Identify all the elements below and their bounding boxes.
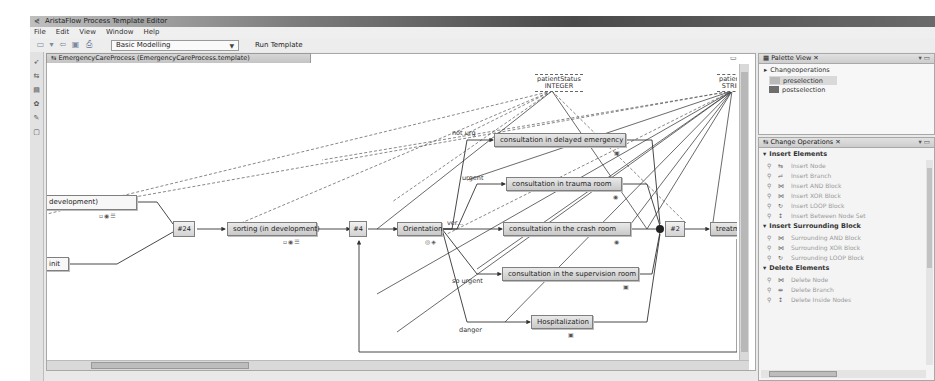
minimize-icon[interactable]: ▭ (730, 54, 737, 62)
edge-label-urgent: urgent (462, 174, 483, 182)
settings-tool-icon[interactable]: ✿ (33, 100, 41, 108)
edge-label-very-urgent: ver... (447, 219, 463, 227)
expand-icon: ▾ (763, 150, 766, 158)
menu-help[interactable]: Help (144, 27, 160, 38)
scroll-thumb[interactable] (769, 371, 837, 377)
scroll-thumb[interactable] (91, 362, 249, 369)
back-icon[interactable]: ⇦ (58, 41, 67, 49)
op-insert-between-node-set[interactable]: ⚲↕Insert Between Node Set (767, 210, 934, 220)
editor-tab[interactable]: ⇆ EmergencyCareProcess (EmergencyCarePro… (46, 53, 311, 63)
window-title: AristaFlow Process Template Editor (45, 16, 167, 27)
insert-between-icon: ↕ (778, 212, 786, 219)
folder-icon: ▸ (764, 66, 767, 74)
menu-view[interactable]: View (79, 27, 96, 38)
palette-view-panel: ▦ Palette View ✕ ▾ ▭ ▸ Changeoperations … (758, 53, 935, 135)
menu-window[interactable]: Window (106, 27, 134, 38)
node-status-icons: ◎◈ (425, 238, 437, 245)
node-init[interactable]: init (47, 257, 69, 271)
toolbar: ▭ ▾ ⇦ ▣ ⎙ Basic Modelling ▼ Run Template (30, 38, 935, 52)
data-object-patient-status[interactable]: patientStatus INTEGER (535, 74, 583, 92)
window-tool-icon[interactable]: ▢ (33, 128, 41, 136)
change-ops-horizontal-scrollbar[interactable] (761, 370, 926, 378)
node-sorting[interactable]: sorting (in development) (227, 222, 317, 236)
pin-icon: ⚲ (767, 296, 773, 303)
pin-icon: ⚲ (767, 212, 773, 219)
loop-start-gateway[interactable]: #4 (349, 221, 367, 237)
color-swatch (769, 86, 779, 93)
op-surrounding-xor-block[interactable]: ⚲⋈Surrounding XOR Block (767, 242, 934, 252)
pin-icon: ⚲ (767, 192, 773, 199)
loop-block-icon: ↻ (778, 254, 786, 261)
pin-tool-icon[interactable]: ✎ (33, 114, 41, 122)
op-surrounding-loop-block[interactable]: ⚲↻Surrounding LOOP Block (767, 252, 934, 262)
change-operations-panel: ⇆ Change Operations ✕ ▾ ▭ ▾ Insert Eleme… (758, 137, 935, 381)
xor-block-icon: ⋈ (778, 192, 786, 199)
scroll-thumb[interactable] (741, 72, 748, 352)
xor-join-gateway[interactable]: #24 (173, 221, 195, 237)
canvas-vertical-scrollbar[interactable] (739, 64, 749, 360)
process-canvas[interactable]: patientStatus INTEGER patientID STRING d… (47, 64, 737, 360)
panel-window-controls[interactable]: ▾ ▭ (919, 54, 930, 63)
app-window: ⋞ AristaFlow Process Template Editor Fil… (30, 16, 935, 381)
close-icon[interactable]: ✕ (835, 138, 840, 146)
change-ops-vertical-scrollbar[interactable] (926, 160, 933, 365)
edge-label-so-urgent: so urgent (452, 277, 483, 285)
node-consultation-trauma[interactable]: consultation in trauma room (506, 177, 622, 191)
save-icon[interactable]: ▣ (71, 41, 80, 49)
layout-tool-icon[interactable]: ▤ (33, 86, 41, 94)
print-icon[interactable]: ⎙ (84, 41, 93, 49)
expand-icon: ▾ (763, 264, 766, 272)
node-tool-icon[interactable]: ⇆ (33, 72, 41, 80)
node-development[interactable]: development) (47, 195, 137, 210)
node-consultation-supervision[interactable]: consultation in the supervision room (502, 267, 639, 281)
chevron-down-icon: ▼ (229, 42, 234, 49)
section-delete-elements[interactable]: ▾ Delete Elements (759, 262, 934, 274)
op-insert-node[interactable]: ⚲⇆Insert Node (767, 160, 934, 170)
op-insert-and-block[interactable]: ⚲⋈Insert AND Block (767, 180, 934, 190)
palette-view-tab[interactable]: ▦ Palette View ✕ ▾ ▭ (759, 54, 934, 64)
canvas-horizontal-scrollbar[interactable] (47, 360, 749, 370)
panel-window-controls[interactable]: ▾ ▭ (919, 138, 930, 147)
op-insert-loop-block[interactable]: ⚲↻Insert LOOP Block (767, 200, 934, 210)
node-consultation-crash[interactable]: consultation in the crash room (503, 222, 631, 236)
scroll-thumb[interactable] (927, 168, 932, 268)
edges-layer (47, 64, 737, 360)
title-bar: ⋞ AristaFlow Process Template Editor (30, 16, 935, 27)
run-template-button[interactable]: Run Template (255, 41, 303, 49)
dropdown-icon[interactable]: ▾ (49, 41, 54, 49)
menu-file[interactable]: File (34, 27, 46, 38)
process-icon: ⇆ (51, 54, 59, 62)
op-surrounding-and-block[interactable]: ⚲⋈Surrounding AND Block (767, 232, 934, 242)
data-object-patient-id[interactable]: patientID STRING (717, 74, 737, 92)
op-delete-node[interactable]: ⚲⋈Delete Node (767, 274, 934, 284)
palette-item-postselection[interactable]: postselection (769, 85, 934, 94)
node-hospitalization[interactable]: Hospitalization (531, 315, 593, 329)
new-icon[interactable]: ▭ (36, 41, 45, 49)
op-insert-branch[interactable]: ⚲⥄Insert Branch (767, 170, 934, 180)
pin-icon: ⚲ (767, 182, 773, 189)
node-orientation[interactable]: Orientation (397, 222, 442, 236)
loop-block-icon: ↻ (778, 202, 786, 209)
node-status-icons: ◉ (613, 193, 619, 200)
menu-edit[interactable]: Edit (56, 27, 70, 38)
section-insert-surrounding-block[interactable]: ▾ Insert Surrounding Block (759, 220, 934, 232)
delete-branch-icon: ⇹ (778, 286, 786, 293)
palette-item-preselection[interactable]: preselection (769, 76, 837, 85)
mode-select[interactable]: Basic Modelling ▼ (111, 40, 239, 51)
xor-join-gateway-right[interactable]: #2 (665, 221, 685, 237)
op-delete-branch[interactable]: ⚲⇹Delete Branch (767, 284, 934, 294)
op-delete-inside-nodes[interactable]: ⚲↕Delete Inside Nodes (767, 294, 934, 304)
section-insert-elements[interactable]: ▾ Insert Elements (759, 148, 934, 160)
editor-window-controls: ▭ (730, 54, 737, 62)
mode-select-value: Basic Modelling (116, 41, 171, 49)
node-consultation-delayed[interactable]: consultation in delayed emergency (494, 133, 626, 147)
op-insert-xor-block[interactable]: ⚲⋈Insert XOR Block (767, 190, 934, 200)
node-treatment[interactable]: treatment and ca (710, 222, 737, 236)
palette-group[interactable]: ▸ Changeoperations (759, 64, 934, 76)
edge-label-not-urgent: not urg (452, 129, 476, 137)
close-icon[interactable]: ✕ (813, 54, 818, 62)
select-tool-icon[interactable]: ➶ (33, 58, 41, 66)
change-operations-tab[interactable]: ⇆ Change Operations ✕ ▾ ▭ (759, 138, 934, 148)
delete-node-icon: ⋈ (778, 276, 786, 283)
data-object-type: STRING (719, 83, 737, 90)
